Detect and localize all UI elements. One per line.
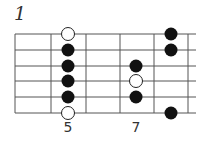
filled-note-dot [130,91,143,104]
fretboard [0,0,211,146]
filled-note-dot [62,44,75,57]
filled-note-dot [130,60,143,73]
fret-lines [15,34,188,113]
fret-label-5: 5 [58,120,78,134]
filled-note-dot [165,44,178,57]
open-note-dot [62,28,75,41]
fret-label-7: 7 [126,120,146,134]
filled-note-dot [62,91,75,104]
filled-note-dot [62,75,75,88]
filled-note-dot [165,28,178,41]
filled-note-dot [62,60,75,73]
filled-note-dot [165,107,178,120]
open-note-dot [130,75,143,88]
open-note-dot [62,107,75,120]
